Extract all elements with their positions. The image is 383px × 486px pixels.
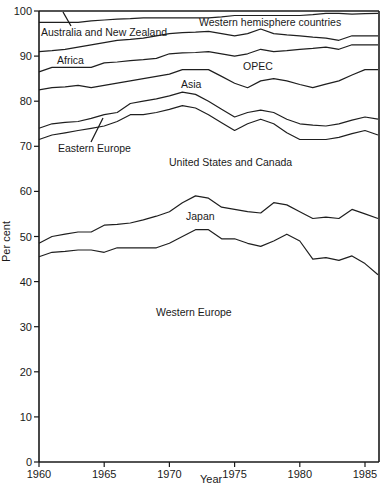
label-western-europe: Western Europe	[156, 306, 232, 318]
boundary-line	[39, 230, 378, 275]
y-tick-label: 50	[20, 231, 32, 243]
leader-eastern-europe	[91, 118, 103, 142]
label-western-hemisphere: Western hemisphere countries	[199, 16, 341, 28]
label-japan: Japan	[186, 210, 215, 222]
boundary-line	[39, 70, 378, 90]
chart-canvas: 0102030405060708090100 19601965197019751…	[0, 0, 383, 486]
x-tick-label: 1965	[92, 468, 116, 480]
x-tick-label: 1960	[27, 468, 51, 480]
y-axis-ticks: 0102030405060708090100	[14, 5, 39, 468]
boundary-line	[39, 92, 378, 128]
y-tick-label: 90	[20, 50, 32, 62]
y-tick-label: 40	[20, 276, 32, 288]
leader-australia-nz	[63, 12, 71, 26]
label-eastern-europe: Eastern Europe	[58, 142, 131, 154]
y-tick-label: 0	[26, 456, 32, 468]
stacked-area-chart: 0102030405060708090100 19601965197019751…	[0, 0, 383, 486]
y-tick-label: 100	[14, 5, 32, 17]
label-africa: Africa	[57, 54, 84, 66]
label-opec: OPEC	[243, 60, 273, 72]
y-tick-label: 80	[20, 95, 32, 107]
label-asia: Asia	[181, 78, 202, 90]
y-tick-label: 70	[20, 140, 32, 152]
label-australia-nz: Australia and New Zealand	[41, 26, 167, 38]
y-tick-label: 30	[20, 321, 32, 333]
x-tick-label: 1980	[288, 468, 312, 480]
y-tick-label: 20	[20, 366, 32, 378]
boundary-line	[39, 106, 378, 140]
x-tick-label: 1975	[222, 468, 246, 480]
y-axis-title: Per cent	[0, 221, 12, 262]
x-tick-label: 1985	[353, 468, 377, 480]
x-axis-title: Year	[200, 473, 223, 485]
x-tick-label: 1970	[157, 468, 181, 480]
y-tick-label: 60	[20, 185, 32, 197]
label-us-canada: United States and Canada	[169, 156, 292, 168]
boundary-line	[39, 45, 378, 72]
y-tick-label: 10	[20, 411, 32, 423]
